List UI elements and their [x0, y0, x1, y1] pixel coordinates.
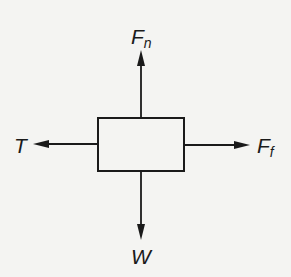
- weight-symbol: W: [131, 245, 151, 268]
- weight-force-arrow: [137, 171, 145, 240]
- arrowhead-right-icon: [234, 141, 250, 149]
- normal-force-symbol: F: [131, 25, 144, 48]
- friction-label: Ff: [257, 135, 274, 159]
- friction-subscript: f: [270, 144, 274, 160]
- weight-label: W: [131, 246, 151, 267]
- friction-force-arrow: [184, 141, 250, 149]
- tension-force-arrow: [33, 140, 98, 148]
- body-block: [98, 118, 184, 171]
- tension-label: T: [14, 135, 27, 156]
- friction-symbol: F: [257, 134, 270, 157]
- normal-force-label: Fn: [131, 26, 152, 50]
- arrowhead-left-icon: [33, 140, 49, 148]
- normal-force-arrow: [137, 50, 145, 118]
- arrowhead-up-icon: [137, 50, 145, 66]
- tension-symbol: T: [14, 134, 27, 157]
- normal-force-subscript: n: [144, 35, 152, 51]
- arrowhead-down-icon: [137, 224, 145, 240]
